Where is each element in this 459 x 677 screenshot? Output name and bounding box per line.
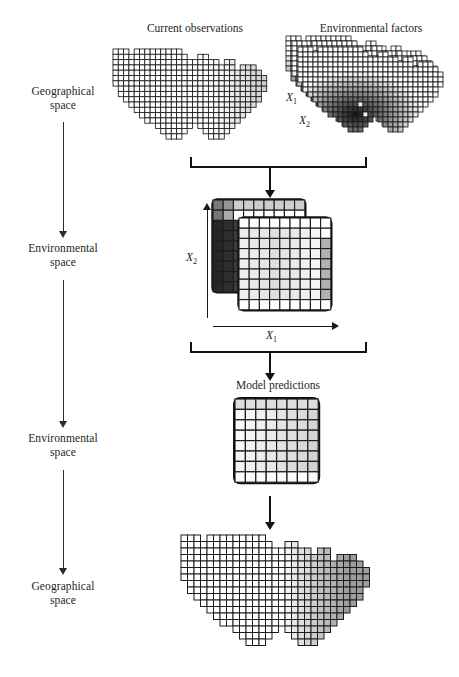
map-projected-distribution — [180, 534, 380, 664]
flow-label-step1: Geographical space — [8, 85, 118, 112]
env-map-axis-label-x2: X2 — [299, 114, 310, 129]
bracket-environmental-to-prediction — [190, 342, 367, 386]
flow-label-step3: Environmental space — [8, 432, 118, 459]
flow-label-step2: Environmental space — [8, 242, 118, 269]
env-map-axis-label-x1: X1 — [286, 91, 297, 106]
flow-arrow-1 — [57, 122, 70, 238]
matrix-model-predictions — [233, 397, 325, 489]
flow-label-step3-line1: Environmental — [8, 432, 118, 446]
flow-label-step1-line1: Geographical — [8, 85, 118, 99]
flow-label-step1-line2: space — [8, 99, 118, 113]
flow-label-step4-line1: Geographical — [8, 580, 118, 594]
bracket-geographic-to-environmental — [190, 157, 367, 201]
flow-arrow-2 — [57, 280, 70, 428]
flow-label-step3-line2: space — [8, 446, 118, 460]
flow-label-step2-line1: Environmental — [8, 242, 118, 256]
flow-label-step4: Geographical space — [8, 580, 118, 607]
diagram-canvas: Current observations Environmental facto… — [0, 0, 459, 677]
flow-label-step4-line2: space — [8, 594, 118, 608]
flow-label-step2-line2: space — [8, 256, 118, 270]
flow-arrow-3 — [57, 470, 70, 575]
map-current-observations — [112, 48, 272, 152]
env-space-axis-label-x2: X2 — [186, 251, 197, 266]
map-environmental-factors — [286, 36, 454, 152]
panel-title-environmental-factors: Environmental factors — [296, 22, 446, 34]
panel-title-current-observations: Current observations — [120, 22, 270, 34]
matrix-environmental-space — [213, 200, 341, 320]
